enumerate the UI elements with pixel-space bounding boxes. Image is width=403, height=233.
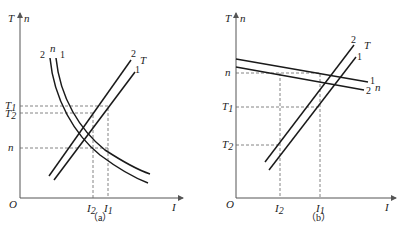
origin-label: O <box>9 198 17 210</box>
y-axis-label-n: n <box>24 12 30 24</box>
y-axis-label-n: n <box>240 12 246 24</box>
origin-label: O <box>226 198 234 210</box>
panel-a: T n I O T1 T2 n I2 I1 2 n 1 2 T 1 （a） <box>5 12 183 223</box>
y-axis-label-T: T <box>8 12 15 24</box>
T-line-1 <box>269 57 356 170</box>
guide-n-I1 <box>236 73 320 198</box>
tick-T2: T2 <box>222 138 233 152</box>
caption-a: （a） <box>88 212 112 223</box>
n-curve-2-label: 2 <box>40 49 45 60</box>
n-line-2-label: 2 <box>366 85 371 96</box>
y-axis-label-T: T <box>225 12 232 24</box>
x-axis-label: I <box>384 201 390 213</box>
T-line-1-label: 1 <box>135 64 140 75</box>
guide-T1-I1 <box>20 106 108 198</box>
tick-T2: T2 <box>5 107 16 121</box>
n-curves-label: n <box>50 42 56 54</box>
x-axis-label: I <box>171 201 177 213</box>
T-line-1-label: 1 <box>357 51 362 62</box>
panel-b: T n I O n T1 T2 I2 I1 1 2 n 2 T 1 （b） <box>222 12 396 223</box>
T-line-2-label: 2 <box>131 48 136 59</box>
caption-b: （b） <box>306 212 331 223</box>
T-lines-label: T <box>364 39 371 51</box>
tick-T1: T1 <box>222 100 233 114</box>
figure: T n I O T1 T2 n I2 I1 2 n 1 2 T 1 （a） T … <box>0 0 403 233</box>
tick-n: n <box>8 141 14 153</box>
T-line-1 <box>54 72 135 180</box>
tick-n: n <box>225 66 231 78</box>
T-line-2 <box>265 45 354 162</box>
n-curve-1-label: 1 <box>60 49 65 60</box>
tick-I2: I2 <box>274 202 284 216</box>
T-line-2-label: 2 <box>351 34 356 45</box>
n-lines-label: n <box>375 81 381 93</box>
T-lines-label: T <box>140 54 147 66</box>
